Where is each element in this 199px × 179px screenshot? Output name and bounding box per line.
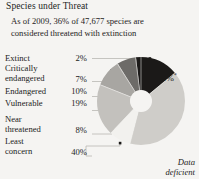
legend-value: 40%: [71, 147, 87, 157]
legend-label: Critically endangered: [5, 63, 45, 83]
data-deficient-line-2: deficient: [165, 167, 195, 177]
donut-hole: [130, 90, 152, 112]
donut-chart-svg: [97, 57, 185, 145]
data-deficient-label: Data deficient: [165, 157, 195, 177]
data-deficient-line-1: Data: [165, 157, 195, 167]
legend-label: Least concern: [5, 136, 32, 156]
legend-label: Near threatened: [5, 114, 41, 134]
legend-value: 8%: [76, 125, 87, 135]
callout-percent: 14%*: [157, 72, 177, 83]
legend-value: 7%: [76, 74, 87, 84]
donut-chart: [97, 57, 185, 145]
callout-percent-value: 14%: [157, 73, 174, 83]
legend-label: Endangered: [5, 86, 46, 96]
legend-value: 2%: [76, 53, 87, 63]
callout-marker: *: [174, 72, 177, 78]
legend-value: 19%: [71, 98, 87, 108]
legend-value: 10%: [71, 86, 87, 96]
legend-label: Extinct: [5, 53, 30, 63]
legend-label: Vulnerable: [5, 98, 43, 108]
infographic-card: Species under Threat As of 2009, 36% of …: [0, 0, 199, 179]
